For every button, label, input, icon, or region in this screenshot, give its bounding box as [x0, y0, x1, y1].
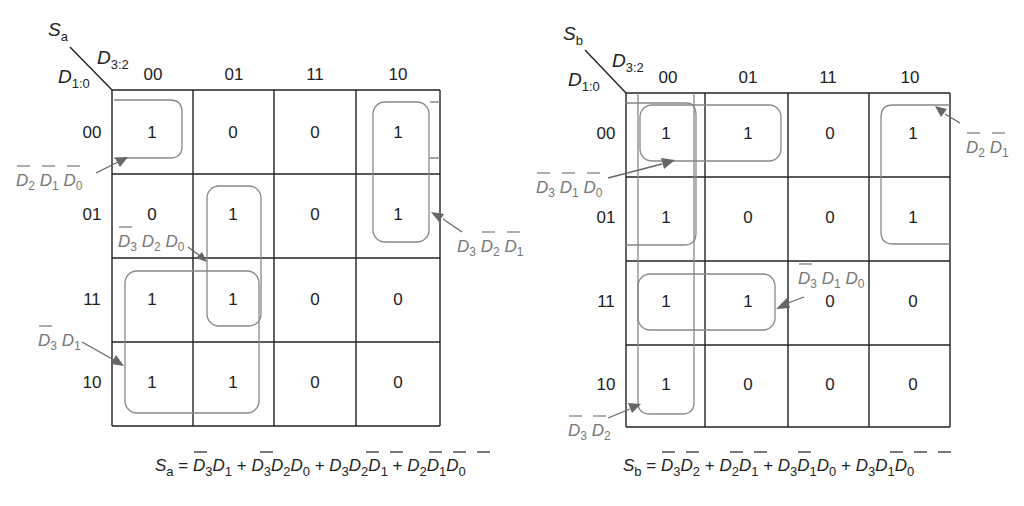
row-header: 11 — [597, 292, 615, 311]
output-label-sb: Sb — [563, 23, 583, 48]
label-d3n-d1n-d0n: D3 D1 D0 — [536, 178, 603, 201]
cell: 1 — [908, 208, 917, 227]
cell: 0 — [825, 375, 834, 394]
cell: 0 — [310, 123, 319, 142]
cell: 1 — [908, 124, 917, 143]
cell: 0 — [310, 290, 319, 309]
row-header: 11 — [83, 290, 101, 309]
col-var-label: D3:2 — [97, 47, 129, 72]
svg-text:Sb = D3D2 +: Sb = D3D2 + D2D1 + D3D1D0 + D3D1D0 — [623, 456, 914, 480]
group-loops — [114, 100, 440, 413]
cell: 0 — [393, 373, 402, 392]
kmap-figure: Sa D3:2 D1:0 00 01 11 10 00 01 11 10 1 0 — [0, 0, 1024, 506]
col-header: 11 — [819, 68, 837, 87]
svg-text:Sa = D3D1 +: Sa = D3D1 + D3D2D0 + D3D2D1 + D2D1D0 — [155, 456, 466, 480]
col-header: 10 — [389, 65, 408, 84]
arrow-icon — [82, 342, 114, 360]
arrow-icon — [788, 297, 804, 303]
cell: 0 — [147, 205, 156, 224]
col-var-label: D3:2 — [612, 50, 644, 75]
kmap-sa: Sa D3:2 D1:0 00 01 11 10 00 01 11 10 1 0 — [16, 19, 524, 480]
col-header: 00 — [659, 68, 678, 87]
arrow-head-icon — [935, 106, 947, 117]
cell: 0 — [825, 208, 834, 227]
col-header: 01 — [739, 68, 758, 87]
group-labels: D2 D1 D0 D3 D2 D0 D3 D2 D1 D3 D1 — [16, 166, 524, 354]
cell: 1 — [661, 124, 670, 143]
cell: 1 — [228, 290, 237, 309]
cell: 1 — [393, 205, 402, 224]
equation-sa: Sa = D3D1 + D3D2D0 + D3D2D1 + D2D1D0 — [155, 452, 490, 480]
cell: 0 — [825, 124, 834, 143]
row-header: 00 — [83, 123, 102, 142]
label-d3n-d1-d0: D3 D1 D0 — [798, 269, 865, 292]
cell: 1 — [147, 290, 156, 309]
label-d2n-d1n-d0n: D2 D1 D0 — [16, 171, 83, 194]
cell: 0 — [825, 292, 834, 311]
cell: 1 — [661, 375, 670, 394]
arrow-head-icon — [111, 355, 124, 366]
cell: 0 — [310, 373, 319, 392]
kmap-cells: 1 1 0 1 1 0 0 1 1 1 0 0 1 0 0 0 — [661, 124, 917, 394]
group-labels: D3 D1 D0 D2 D1 D3 D1 D0 D3 D2 — [536, 133, 1009, 444]
cell: 0 — [908, 292, 917, 311]
row-header: 00 — [597, 124, 616, 143]
cell: 1 — [147, 373, 156, 392]
label-d3n-d1: D3 D1 — [38, 331, 81, 354]
loop-d3n-d1-d0 — [638, 274, 775, 330]
row-header: 10 — [83, 373, 102, 392]
cell: 1 — [228, 205, 237, 224]
arrow-icon — [608, 164, 662, 178]
cell: 0 — [310, 205, 319, 224]
group-arrows — [82, 157, 462, 366]
cell: 0 — [228, 123, 237, 142]
arrow-head-icon — [661, 158, 675, 169]
cell: 0 — [393, 290, 402, 309]
loop-d3-d2n-d1n-wrap — [430, 102, 440, 158]
col-header: 00 — [144, 65, 163, 84]
cell: 1 — [661, 292, 670, 311]
output-label-sa: Sa — [48, 19, 69, 44]
kmap-grid — [626, 93, 950, 427]
arrow-icon — [443, 219, 462, 232]
arrow-icon — [188, 247, 200, 256]
cell: 0 — [743, 375, 752, 394]
label-d3-d2n-d1n: D3 D2 D1 — [457, 237, 524, 260]
label-d2n-d1n: D2 D1 — [966, 138, 1009, 161]
cell: 0 — [908, 375, 917, 394]
cell: 1 — [661, 208, 670, 227]
kmap-sb: Sb D3:2 D1:0 00 01 11 10 00 01 11 10 1 1… — [536, 23, 1009, 480]
row-var-label: D1:0 — [568, 69, 600, 94]
equation-sb: Sb = D3D2 + D2D1 + D3D1D0 + D3D1D0 — [623, 452, 951, 480]
col-header: 11 — [306, 65, 324, 84]
arrow-icon — [945, 114, 960, 123]
col-header: 01 — [225, 65, 244, 84]
arrow-head-icon — [431, 212, 444, 222]
cell: 1 — [228, 373, 237, 392]
arrow-icon — [96, 162, 118, 173]
row-header: 10 — [597, 375, 616, 394]
cell: 1 — [147, 123, 156, 142]
kmap-grid — [112, 90, 440, 426]
cell: 0 — [743, 208, 752, 227]
group-arrows — [608, 106, 960, 418]
row-var-label: D1:0 — [58, 66, 90, 91]
row-header: 01 — [597, 208, 616, 227]
row-header: 01 — [83, 205, 102, 224]
cell: 1 — [393, 123, 402, 142]
cell: 1 — [743, 292, 752, 311]
cell: 1 — [743, 124, 752, 143]
label-d3n-d2-d0: D3 D2 D0 — [118, 232, 185, 255]
col-header: 10 — [901, 68, 920, 87]
label-d3n-d2n: D3 D2 — [568, 421, 611, 444]
